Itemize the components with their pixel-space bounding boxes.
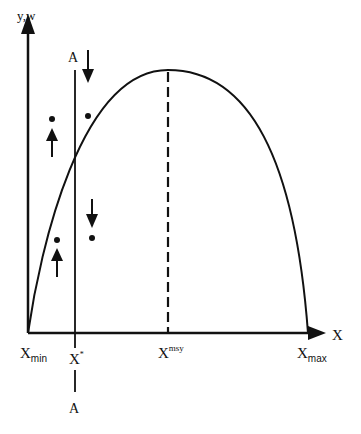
point-lower-left xyxy=(51,237,63,277)
x-tick-xstar: X* xyxy=(69,350,84,367)
svg-text:Xmin: Xmin xyxy=(20,345,47,364)
x-tick-xmax: Xmax xyxy=(297,345,327,364)
line-a-top-label: A xyxy=(68,50,79,65)
xstar-base: X xyxy=(69,351,80,367)
xmin-base: X xyxy=(20,345,31,361)
point-upper-left xyxy=(46,116,58,157)
svg-text:Xmax: Xmax xyxy=(297,345,327,364)
xmax-base: X xyxy=(297,345,308,361)
xmsy-sup: msy xyxy=(169,343,185,353)
xmsy-base: X xyxy=(158,345,169,361)
svg-text:Xmsy: Xmsy xyxy=(158,343,184,361)
point-upper-right xyxy=(82,50,94,119)
line-a-bottom-label: A xyxy=(69,401,80,416)
x-axis-label: X xyxy=(332,327,343,343)
svg-text:X*: X* xyxy=(69,350,84,367)
xmax-sub: max xyxy=(308,353,327,364)
harvest-diagram: y,w X A A Xmin X* Xmsy Xmax xyxy=(0,0,361,434)
xmin-sub: min xyxy=(31,353,47,364)
y-axis: y,w xyxy=(17,8,36,333)
xstar-sup: * xyxy=(80,350,84,359)
x-tick-xmsy: Xmsy xyxy=(158,343,184,361)
y-axis-label: y,w xyxy=(17,8,36,23)
point-lower-right xyxy=(86,199,98,241)
x-axis-arrow-icon xyxy=(308,326,326,340)
x-tick-xmin: Xmin xyxy=(20,345,47,364)
